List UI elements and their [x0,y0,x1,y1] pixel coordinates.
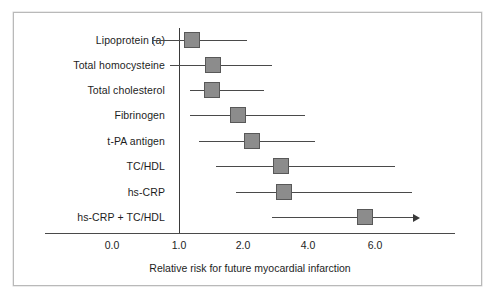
point-marker-4 [230,107,246,123]
ci-whisker-8 [272,217,413,218]
point-marker-1 [184,32,200,48]
x-tick-label-0-0: 0.0 [87,239,137,251]
ci-open-arrow-8 [413,214,420,222]
reference-line-1 [179,28,180,233]
ci-whisker-7 [236,192,412,193]
ci-whisker-2 [170,65,272,66]
ci-cap-low-1 [152,37,153,44]
x-tick-label-2-0: 2.0 [218,239,268,251]
plot-area: Lipoprotein (a)Total homocysteineTotal c… [0,0,496,298]
ci-whisker-6 [216,166,395,167]
x-tick-label-6-0: 6.0 [350,239,400,251]
point-marker-3 [204,82,220,98]
row-label-5: t-PA antigen [20,135,165,147]
point-marker-5 [244,133,260,149]
point-marker-6 [273,158,289,174]
ci-whisker-4 [190,115,305,116]
point-marker-8 [357,209,373,225]
point-marker-7 [276,184,292,200]
row-label-2: Total homocysteine [20,59,165,71]
row-label-7: hs-CRP [20,186,165,198]
row-label-6: TC/HDL [20,160,165,172]
row-label-3: Total cholesterol [20,84,165,96]
row-label-4: Fibrinogen [20,109,165,121]
x-axis-title: Relative risk for future myocardial infa… [45,262,455,274]
ci-whisker-3 [190,90,264,91]
x-tick-label-4-0: 4.0 [283,239,333,251]
row-label-8: hs-CRP + TC/HDL [20,211,165,223]
row-label-1: Lipoprotein (a) [20,34,165,46]
forest-plot-figure: Lipoprotein (a)Total homocysteineTotal c… [0,0,496,298]
point-marker-2 [205,57,221,73]
x-axis-line [45,233,455,234]
x-tick-label-1-0: 1.0 [154,239,204,251]
